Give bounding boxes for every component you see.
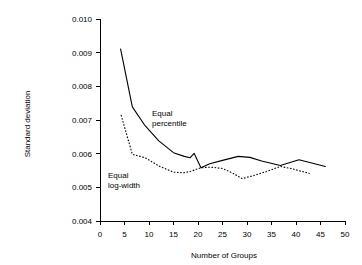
x-tick-label: 10 bbox=[145, 230, 154, 239]
x-tick-label: 20 bbox=[194, 230, 203, 239]
x-axis-ticks bbox=[100, 221, 345, 225]
x-tick-label: 40 bbox=[292, 230, 301, 239]
x-tick-label: 35 bbox=[267, 230, 276, 239]
x-axis-title: Number of Groups bbox=[191, 251, 257, 260]
y-tick-label: 0.009 bbox=[72, 49, 93, 58]
annotation-equal-log-width: Equallog-width bbox=[108, 171, 140, 190]
annotation-equal-percentile: Equalpercentile bbox=[152, 109, 187, 128]
y-tick-label: 0.005 bbox=[72, 183, 93, 192]
y-tick-label: 0.010 bbox=[72, 15, 93, 24]
chart-figure: 0.0040.0050.0060.0070.0080.0090.010 0510… bbox=[0, 0, 362, 265]
series-equal-log-width bbox=[121, 115, 310, 179]
y-tick-label: 0.006 bbox=[72, 150, 93, 159]
y-tick-label: 0.007 bbox=[72, 116, 93, 125]
x-tick-label: 45 bbox=[316, 230, 325, 239]
x-tick-label: 25 bbox=[218, 230, 227, 239]
y-axis-ticks bbox=[96, 19, 100, 221]
y-axis-title: Standard deviation bbox=[23, 91, 32, 158]
x-axis-tick-labels: 05101520253035404550 bbox=[98, 230, 350, 239]
x-tick-label: 15 bbox=[169, 230, 178, 239]
line-chart: 0.0040.0050.0060.0070.0080.0090.010 0510… bbox=[0, 0, 362, 265]
series-annotations: EqualpercentileEquallog-width bbox=[108, 109, 187, 190]
x-tick-label: 0 bbox=[98, 230, 103, 239]
x-tick-label: 5 bbox=[122, 230, 127, 239]
y-tick-label: 0.004 bbox=[72, 217, 93, 226]
y-tick-label: 0.008 bbox=[72, 82, 93, 91]
x-tick-label: 50 bbox=[341, 230, 350, 239]
y-axis-tick-labels: 0.0040.0050.0060.0070.0080.0090.010 bbox=[72, 15, 93, 226]
x-tick-label: 30 bbox=[243, 230, 252, 239]
